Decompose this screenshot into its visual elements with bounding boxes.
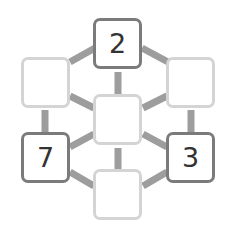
node-upper-left[interactable] xyxy=(21,57,70,108)
node-center[interactable] xyxy=(93,94,142,145)
link-lowerleft-bottom xyxy=(70,172,94,186)
node-upper-right[interactable] xyxy=(166,57,215,108)
link-upperleft-center xyxy=(70,96,94,108)
link-center-lowerright xyxy=(143,134,167,147)
link-top-upperleft xyxy=(70,48,95,62)
link-lowerright-bottom xyxy=(143,172,167,186)
link-top-upperright xyxy=(142,48,168,62)
node-lower-right[interactable]: 3 xyxy=(166,132,215,183)
node-lower-left[interactable]: 7 xyxy=(21,132,70,183)
node-bottom[interactable] xyxy=(93,169,142,220)
link-center-lowerleft xyxy=(70,134,94,147)
node-top[interactable]: 2 xyxy=(93,18,142,69)
puzzle-board: 2 7 3 xyxy=(0,0,235,240)
link-upperright-center xyxy=(143,96,167,108)
